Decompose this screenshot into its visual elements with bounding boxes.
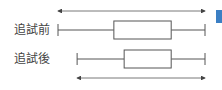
box-before (58, 21, 205, 39)
accent-tab (216, 10, 222, 23)
boxplot-diagram: 追試前追試後 (0, 0, 222, 90)
iqr-box (114, 21, 171, 39)
series-label: 追試前 (14, 22, 50, 37)
box-after (77, 50, 205, 68)
iqr-box (124, 50, 171, 68)
series-label: 追試後 (14, 51, 50, 66)
